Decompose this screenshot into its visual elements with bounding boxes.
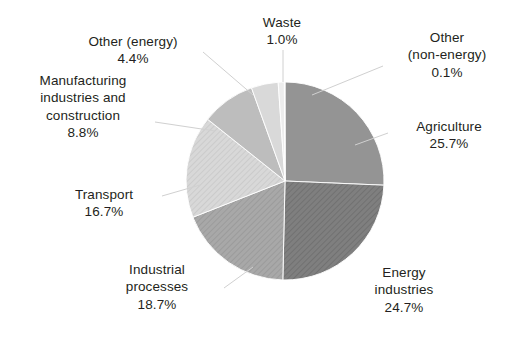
pie-label-energy-ind: Energy industries24.7% bbox=[341, 264, 467, 316]
pie-label-other-nonen: Other (non-energy)0.1% bbox=[386, 29, 508, 81]
pie-label-value: 16.7% bbox=[48, 203, 160, 220]
pie-slice-group bbox=[186, 82, 384, 280]
pie-label-transport: Transport16.7% bbox=[48, 186, 160, 221]
pie-label-name: Other (energy) bbox=[63, 33, 203, 50]
pie-label-value: 4.4% bbox=[63, 50, 203, 67]
pie-label-name: Manufacturing industries and constructio… bbox=[13, 72, 153, 124]
pie-label-name: Industrial processes bbox=[92, 261, 222, 296]
leader-line-other-energy bbox=[203, 52, 253, 95]
pie-label-value: 8.8% bbox=[13, 124, 153, 141]
pie-label-name: Energy industries bbox=[341, 264, 467, 299]
pie-label-value: 25.7% bbox=[391, 135, 507, 152]
pie-label-value: 0.1% bbox=[386, 64, 508, 81]
pie-label-name: Transport bbox=[48, 186, 160, 203]
pie-label-other-energy: Other (energy)4.4% bbox=[63, 33, 203, 68]
pie-label-value: 1.0% bbox=[237, 31, 327, 48]
pie-label-name: Other (non-energy) bbox=[386, 29, 508, 64]
pie-slice-other-non-energy[interactable] bbox=[284, 82, 285, 181]
pie-label-name: Agriculture bbox=[391, 118, 507, 135]
pie-slice-agriculture[interactable] bbox=[285, 82, 384, 185]
pie-chart-figure: Waste1.0%Other (energy)4.4%Manufacturing… bbox=[0, 0, 511, 353]
pie-label-value: 24.7% bbox=[341, 299, 467, 316]
pie-label-waste: Waste1.0% bbox=[237, 14, 327, 49]
leader-line-industrial bbox=[224, 267, 253, 288]
leader-line-other-nonen bbox=[312, 66, 383, 95]
pie-label-agriculture: Agriculture25.7% bbox=[391, 118, 507, 153]
pie-label-value: 18.7% bbox=[92, 296, 222, 313]
pie-label-manufacturing: Manufacturing industries and constructio… bbox=[13, 72, 153, 141]
pie-label-industrial: Industrial processes18.7% bbox=[92, 261, 222, 313]
pie-label-name: Waste bbox=[237, 14, 327, 31]
